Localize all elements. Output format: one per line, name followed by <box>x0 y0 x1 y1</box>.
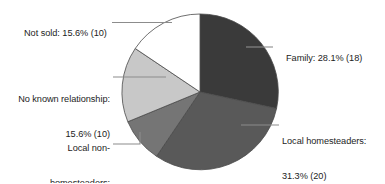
pie-label-local-non-homesteaders: Local non- homesteaders: 9.4% (6) <box>6 120 110 183</box>
pie-label-not-sold: Not sold: 15.6% (10) <box>14 16 107 51</box>
pie-label-local-homesteaders-line1: Local homesteaders: <box>282 136 366 148</box>
pie-label-not-sold-text: Not sold: 15.6% (10) <box>24 28 107 38</box>
pie-chart-figure: Not sold: 15.6% (10) No known relationsh… <box>0 0 385 183</box>
pie-label-family: Family: 28.1% (18) <box>276 41 362 76</box>
pie-label-family-text: Family: 28.1% (18) <box>286 53 362 63</box>
pie-label-local-homesteaders: Local homesteaders: 31.3% (20) <box>282 113 366 183</box>
pie-slices <box>122 14 278 170</box>
pie-label-no-known-relationship-line1: No known relationship: <box>4 94 110 106</box>
pie-label-local-non-homesteaders-line1: Local non- <box>6 143 110 155</box>
pie-label-local-non-homesteaders-line2: homesteaders: <box>6 178 110 184</box>
pie-label-local-homesteaders-line2: 31.3% (20) <box>282 171 366 183</box>
